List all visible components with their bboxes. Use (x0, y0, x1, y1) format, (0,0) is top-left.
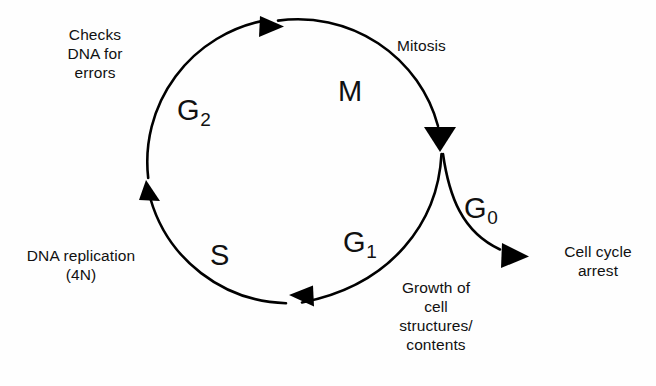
phase-g0-letter: G (464, 192, 487, 224)
cell-cycle-arrest-label: Cell cycle arrest (549, 243, 647, 281)
phase-s-letter: S (210, 239, 230, 271)
phase-g2-letter: G (177, 94, 200, 126)
checks-dna-label: Checks DNA for errors (36, 26, 154, 83)
phase-g1-subscript: 1 (366, 241, 377, 262)
phase-label-g0: G0 (464, 191, 498, 226)
arrowhead-right (424, 127, 456, 152)
phase-label-g1: G1 (343, 225, 377, 260)
dna-replication-label: DNA replication (4N) (6, 247, 156, 285)
phase-label-s: S (210, 238, 230, 273)
phase-label-m: M (338, 74, 362, 109)
phase-g1-letter: G (343, 226, 366, 258)
phase-label-g2: G2 (177, 93, 211, 128)
mitosis-label: Mitosis (397, 37, 446, 56)
growth-of-cell-label: Growth of cell structures/ contents (375, 279, 497, 355)
phase-g2-subscript: 2 (200, 109, 211, 130)
phase-m-letter: M (338, 75, 362, 107)
arrowhead-left (139, 180, 160, 201)
cell-cycle-diagram: Checks DNA for errors Mitosis DNA replic… (0, 0, 656, 386)
arrowhead-g0 (501, 243, 529, 268)
phase-g0-subscript: 0 (487, 207, 498, 228)
arc-m-phase (278, 19, 438, 126)
